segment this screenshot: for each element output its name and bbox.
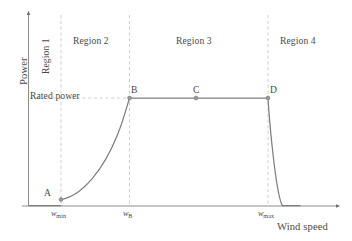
region-label-1: Region 1 xyxy=(41,38,51,74)
power-curve-figure: Power Wind speed Region 1 Region 2 Regio… xyxy=(0,0,352,241)
curve-point-markers xyxy=(59,96,270,201)
x-tick-sub-wB: B xyxy=(128,212,132,219)
marker-point-C xyxy=(194,96,198,100)
x-tick-sub-wmin: min xyxy=(56,212,66,219)
y-axis-title: Power xyxy=(19,57,30,85)
region-label-2: Region 2 xyxy=(73,36,109,46)
marker-point-A xyxy=(59,198,63,202)
x-tick-label-wB: wB xyxy=(123,210,133,218)
x-tick-label-wmin: wmin xyxy=(51,210,67,218)
region-label-3: Region 3 xyxy=(176,36,212,46)
marker-point-B xyxy=(128,96,132,100)
point-label-A: A xyxy=(44,188,51,198)
curve-segment-region2 xyxy=(61,98,130,200)
power-curve-line xyxy=(29,98,300,206)
curve-segment-region4 xyxy=(268,98,282,206)
y-tick-label-rated-power: Rated power xyxy=(30,91,80,101)
x-tick-sub-wmax: max xyxy=(263,212,274,219)
point-label-B: B xyxy=(131,85,138,95)
x-tick-label-wmax: wmax xyxy=(258,210,275,218)
x-axis-title: Wind speed xyxy=(277,222,328,233)
marker-point-D xyxy=(266,96,270,100)
point-label-C: C xyxy=(193,85,200,95)
region-label-4: Region 4 xyxy=(280,36,316,46)
point-label-D: D xyxy=(270,85,277,95)
